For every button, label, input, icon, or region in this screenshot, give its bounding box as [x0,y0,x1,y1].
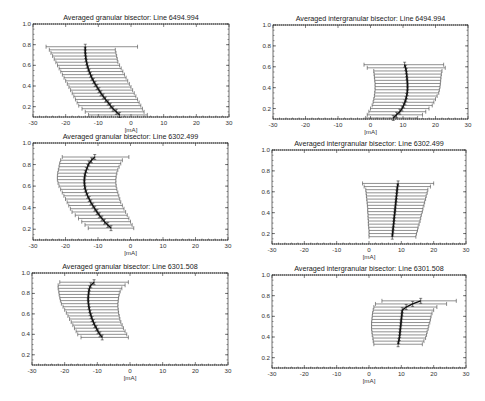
y-tick-label: 0.6 [22,182,31,189]
y-tick-label: 0.8 [261,167,270,174]
x-tick-label: -10 [94,242,104,249]
x-tick-label: 10 [398,246,405,253]
figure: Averaged granular bisector: Line 6494.99… [0,0,485,401]
x-tick-label: -30 [268,370,278,377]
x-tick-label: 10 [400,121,407,128]
y-tick-label: 0.6 [261,188,270,195]
y-tick-label: 1.0 [21,269,30,276]
x-tick-label: 10 [160,119,167,126]
plot-frame [272,275,466,368]
y-tick-label: 1.0 [261,146,270,153]
x-tick-label: -10 [332,370,342,377]
y-tick-label: 0.6 [21,310,30,317]
panel-top-left: Averaged granular bisector: Line 6494.99… [22,13,233,133]
x-tick-label: -20 [61,242,71,249]
y-tick-label: 0.6 [262,63,271,70]
y-tick-label: 0.8 [22,41,31,48]
x-tick-label: 20 [430,246,437,253]
plot-frame [32,273,228,365]
x-tick-label: 0 [129,119,133,126]
x-tick-label: 0 [369,121,373,128]
chart-title: Averaged intergranular bisector: Line 64… [296,14,446,23]
y-tick-label: 0.4 [261,333,270,340]
x-tick-label: -10 [93,367,103,374]
x-tick-label: -30 [29,119,39,126]
y-tick-label: 0.4 [21,330,30,337]
x-tick-label: -30 [28,367,38,374]
x-tick-label: 20 [192,242,199,249]
x-tick-label: 30 [225,367,232,374]
y-tick-label: 0.4 [22,82,31,89]
y-tick-label: 1.0 [22,139,31,146]
chart-title: Averaged granular bisector: Line 6301.50… [62,262,198,271]
plot-frame [273,25,468,119]
x-tick-label: -20 [60,367,70,374]
x-tick-label: -20 [300,370,310,377]
chart-title: Averaged intergranular bisector: Line 63… [294,264,444,273]
x-tick-label: 10 [160,242,167,249]
x-tick-label: -10 [94,119,104,126]
y-tick-label: 0.8 [21,289,30,296]
y-tick-label: 0.2 [22,225,31,232]
x-tick-label: -30 [29,242,39,249]
x-axis-label: [mA] [363,253,376,260]
x-tick-label: 30 [463,246,470,253]
x-axis-label: [mA] [364,128,377,135]
y-tick-label: 0.2 [21,351,30,358]
x-tick-label: -30 [268,246,278,253]
y-tick-label: 0.4 [262,84,271,91]
x-tick-label: -20 [61,119,71,126]
y-tick-label: 0.2 [261,354,270,361]
x-tick-label: 0 [367,246,371,253]
bisector-line [392,183,398,236]
x-tick-label: -30 [269,121,279,128]
x-tick-label: 0 [367,370,371,377]
x-tick-label: -10 [332,246,342,253]
x-tick-label: 20 [430,370,437,377]
x-tick-label: 30 [463,370,470,377]
chart-title: Averaged granular bisector: Line 6302.49… [63,132,199,141]
x-tick-label: 20 [192,367,199,374]
panel-top-right: Averaged intergranular bisector: Line 64… [262,14,472,135]
y-tick-label: 0.6 [261,312,270,319]
x-tick-label: 10 [398,370,405,377]
x-tick-label: 0 [129,242,133,249]
y-tick-label: 0.8 [262,42,271,49]
y-tick-label: 0.6 [22,61,31,68]
chart-title: Averaged granular bisector: Line 6494.99… [63,13,199,22]
x-tick-label: 30 [225,242,232,249]
panel-middle-right: Averaged intergranular bisector: Line 63… [261,139,470,260]
x-axis-label: [mA] [363,377,376,384]
x-tick-label: -20 [301,121,311,128]
plot-frame [33,24,229,117]
x-axis-label: [mA] [124,374,137,381]
x-tick-label: 30 [226,119,233,126]
y-tick-label: 1.0 [261,271,270,278]
x-tick-label: 20 [193,119,200,126]
panel-bottom-left: Averaged granular bisector: Line 6301.50… [21,262,232,381]
panel-bottom-right: Averaged intergranular bisector: Line 63… [261,264,470,384]
y-tick-label: 1.0 [262,21,271,28]
y-tick-label: 0.2 [262,105,271,112]
y-tick-label: 0.4 [22,204,31,211]
x-tick-label: 30 [465,121,472,128]
x-tick-label: -10 [334,121,344,128]
y-tick-label: 0.2 [22,103,31,110]
x-tick-label: -20 [300,246,310,253]
y-tick-label: 0.8 [261,292,270,299]
y-tick-label: 0.2 [261,230,270,237]
chart-title: Averaged intergranular bisector: Line 63… [294,139,444,148]
y-tick-label: 0.4 [261,209,270,216]
x-tick-label: 10 [159,367,166,374]
panel-middle-left: Averaged granular bisector: Line 6302.49… [22,132,232,256]
y-tick-label: 0.8 [22,161,31,168]
y-tick-label: 1.0 [22,20,31,27]
x-tick-label: 0 [128,367,132,374]
bisector-line [393,65,407,118]
x-tick-label: 20 [432,121,439,128]
x-axis-label: [mA] [124,249,137,256]
